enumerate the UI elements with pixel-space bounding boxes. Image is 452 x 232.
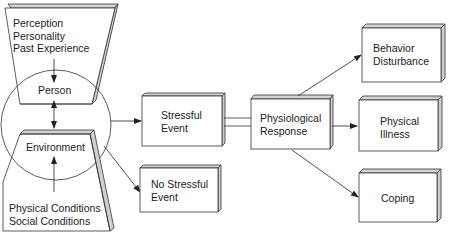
no-stressful-event-label: No Stressful Event: [151, 178, 208, 203]
factor-personality: Personality: [13, 30, 89, 43]
factor-past-experience: Past Experience: [13, 42, 89, 55]
factor-perception: Perception: [13, 17, 89, 30]
environment-factors-label: Physical Conditions Social Conditions: [9, 202, 101, 227]
coping-label: Coping: [381, 192, 414, 205]
stressful-event-label: Stressful Event: [161, 109, 202, 134]
factor-physical-conditions: Physical Conditions: [9, 202, 101, 215]
environment-label: Environment: [26, 141, 85, 154]
physiological-response-label: Physiological Response: [260, 112, 321, 137]
behavior-disturbance-label: Behavior Disturbance: [373, 42, 429, 67]
person-factors-label: Perception Personality Past Experience: [13, 17, 89, 55]
person-label: Person: [38, 84, 71, 97]
physical-illness-label: Physical Illness: [380, 115, 419, 140]
factor-social-conditions: Social Conditions: [9, 215, 101, 228]
